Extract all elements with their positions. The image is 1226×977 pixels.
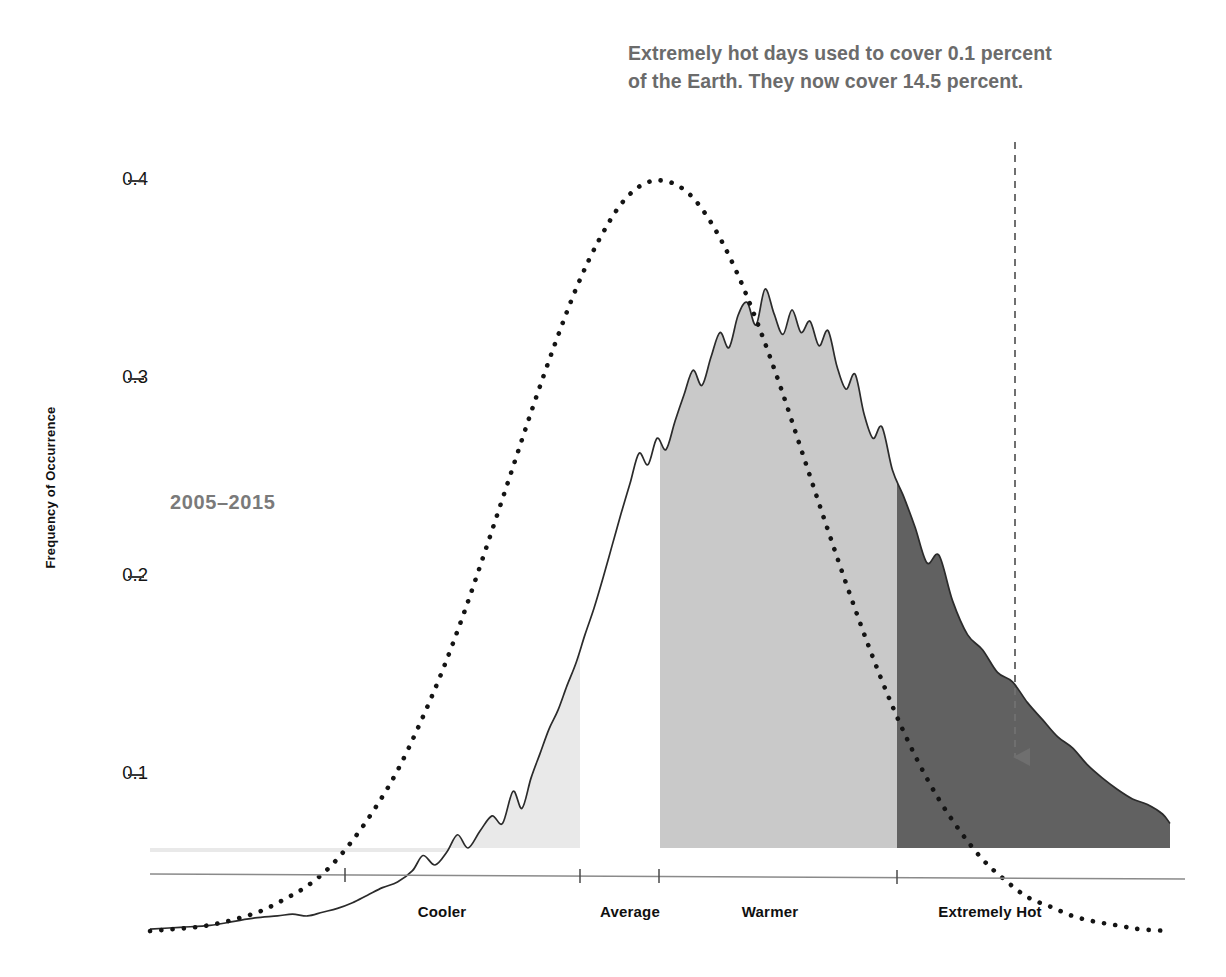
- chart-plot-svg: [0, 0, 1226, 977]
- x-axis-line: [150, 874, 1185, 879]
- chart-container: Extremely hot days used to cover 0.1 per…: [0, 0, 1226, 977]
